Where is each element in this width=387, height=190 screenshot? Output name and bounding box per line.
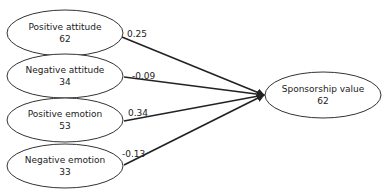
node-positive-attitude: Positive attitude 62 [7, 10, 123, 56]
node-value: 62 [59, 34, 70, 44]
node-value: 33 [59, 167, 70, 177]
node-label: Sponsorship value [282, 84, 365, 94]
node-label: Negative attitude [26, 65, 105, 75]
edge-coefficient: 0.25 [127, 29, 147, 39]
node-positive-emotion: Positive emotion 53 [7, 98, 123, 142]
edge-coefficient: -0.13 [122, 149, 145, 159]
node-negative-attitude: Negative attitude 34 [7, 54, 123, 98]
edge-negative-emotion: -0.13 [122, 95, 264, 165]
edge-negative-attitude: -0.09 [124, 71, 264, 95]
node-value: 34 [59, 77, 71, 87]
edge-coefficient: 0.34 [128, 108, 148, 118]
node-value: 62 [317, 96, 328, 106]
path-diagram: 0.25 -0.09 0.34 -0.13 Positive attitude … [0, 0, 387, 190]
node-label: Negative emotion [25, 155, 105, 165]
node-label: Positive attitude [28, 22, 102, 32]
node-negative-emotion: Negative emotion 33 [7, 144, 123, 188]
node-sponsorship-value: Sponsorship value 62 [265, 72, 381, 118]
edge-positive-emotion: 0.34 [124, 95, 264, 121]
node-label: Positive emotion [28, 109, 103, 119]
node-value: 53 [59, 121, 70, 131]
edge-coefficient: -0.09 [132, 71, 156, 81]
